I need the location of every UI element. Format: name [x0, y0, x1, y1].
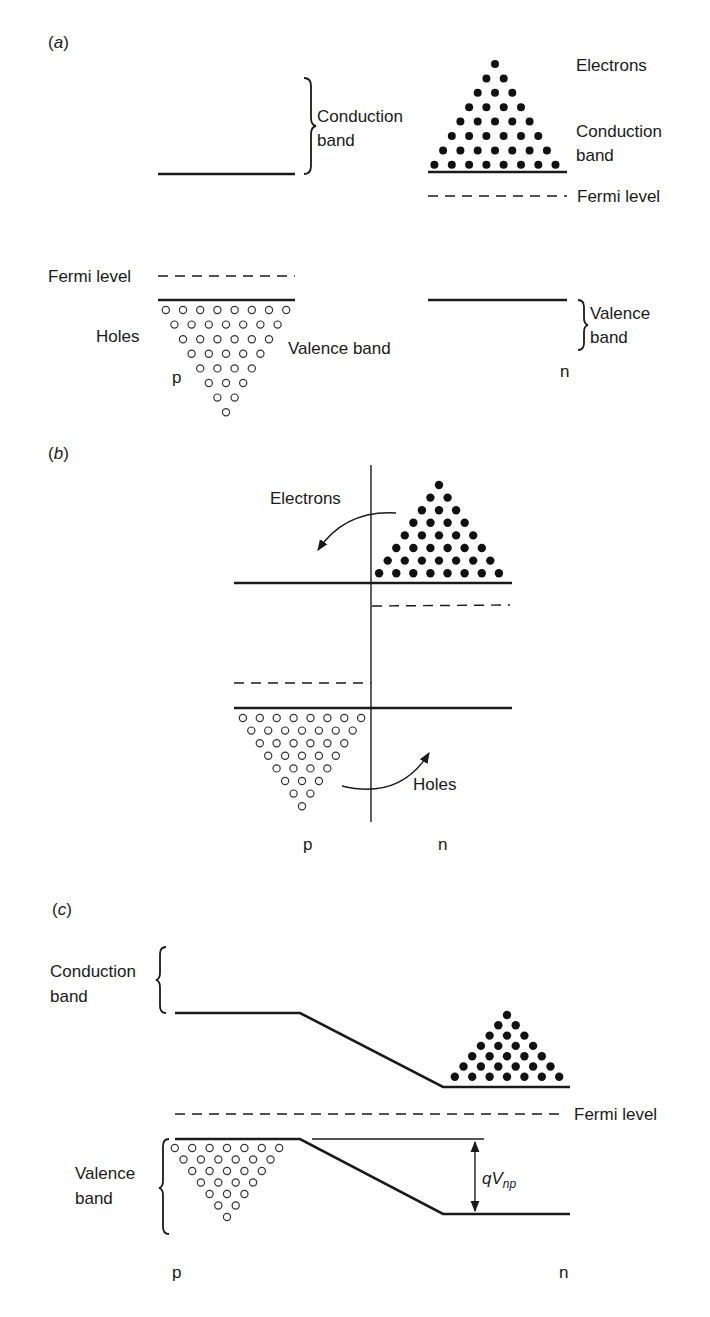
electron-dot	[465, 103, 473, 111]
electron-dot	[517, 132, 525, 140]
n-region-label-c: n	[559, 1263, 568, 1282]
electron-dot	[482, 161, 490, 169]
electron-dot	[409, 569, 417, 577]
electron-dot	[491, 89, 499, 97]
electron-dot	[430, 161, 438, 169]
hole-circle	[232, 1156, 239, 1163]
electron-dot	[459, 1062, 467, 1070]
hole-circle	[222, 409, 229, 416]
hole-circle	[265, 336, 272, 343]
electron-dot	[512, 1062, 520, 1070]
electrons-label: Electrons	[576, 56, 647, 75]
electron-dot	[485, 1031, 493, 1039]
hole-circle	[189, 1144, 196, 1151]
electron-dot	[426, 544, 434, 552]
fermi-level-label-c: Fermi level	[574, 1105, 657, 1124]
electron-dot	[477, 1042, 485, 1050]
pn-junction-band-diagram: (a) Conduction band Electrons Conduction…	[0, 0, 710, 1317]
hole-circle	[256, 714, 263, 721]
hole-circle	[231, 336, 238, 343]
valence-band-brace-c	[159, 1139, 169, 1234]
hole-circle	[240, 350, 247, 357]
hole-circle	[171, 321, 178, 328]
electron-dot	[435, 531, 443, 539]
electron-dot	[478, 544, 486, 552]
electron-dot	[468, 1052, 476, 1060]
electron-dot	[474, 118, 482, 126]
hole-circle	[290, 765, 297, 772]
hole-circle	[215, 1156, 222, 1163]
electron-dot	[494, 1021, 502, 1029]
hole-circle	[188, 350, 195, 357]
electron-dot	[474, 146, 482, 154]
electron-dot	[392, 544, 400, 552]
hole-circle	[197, 365, 204, 372]
electron-dot	[555, 1073, 563, 1081]
electron-dot	[482, 103, 490, 111]
electron-dot	[418, 556, 426, 564]
electron-dot	[384, 556, 392, 564]
hole-circle	[214, 394, 221, 401]
electron-dot	[435, 481, 443, 489]
electron-dot	[448, 161, 456, 169]
hole-circle	[214, 306, 221, 313]
electron-dot	[529, 1042, 537, 1050]
fermi-level-label-p: Fermi level	[48, 267, 131, 286]
hole-circle	[332, 752, 339, 759]
electron-dot	[534, 161, 542, 169]
hole-circle	[222, 350, 229, 357]
hole-circle	[215, 1202, 222, 1209]
hole-circle	[290, 790, 297, 797]
electron-dot	[426, 569, 434, 577]
electron-dot	[469, 556, 477, 564]
electron-dot	[538, 1052, 546, 1060]
hole-circle	[341, 740, 348, 747]
electron-dot	[508, 89, 516, 97]
electron-dot	[451, 1073, 459, 1081]
hole-circle	[273, 765, 280, 772]
electron-dot	[418, 506, 426, 514]
hole-circle	[205, 350, 212, 357]
hole-circle	[240, 379, 247, 386]
conduction-band-label-p-2: band	[317, 131, 355, 150]
electron-dot	[534, 132, 542, 140]
hole-circle	[315, 752, 322, 759]
electron-dot	[460, 569, 468, 577]
hole-circle	[265, 727, 272, 734]
hole-circle	[205, 379, 212, 386]
hole-circle	[197, 1179, 204, 1186]
electron-distribution-a	[430, 60, 559, 169]
electron-dot	[443, 493, 451, 501]
hole-circle	[197, 1156, 204, 1163]
conduction-band-brace-c	[156, 947, 166, 1013]
hole-circle	[265, 306, 272, 313]
hole-circle	[274, 321, 281, 328]
electrons-flow-label: Electrons	[270, 489, 341, 508]
electron-dot	[520, 1073, 528, 1081]
electron-dot	[495, 569, 503, 577]
hole-circle	[290, 740, 297, 747]
electron-dot	[409, 519, 417, 527]
electron-dot	[468, 1073, 476, 1081]
electron-dot	[418, 531, 426, 539]
hole-circle	[206, 1190, 213, 1197]
electron-dot	[456, 118, 464, 126]
hole-circle	[250, 1179, 257, 1186]
hole-circle	[307, 790, 314, 797]
electron-dot	[482, 132, 490, 140]
electron-dot	[517, 103, 525, 111]
electron-dot	[477, 1062, 485, 1070]
valence-band-label-p: Valence band	[288, 339, 391, 358]
electron-dot	[461, 519, 469, 527]
hole-circle	[324, 765, 331, 772]
hole-distribution-c	[171, 1144, 283, 1220]
n-region-label-b: n	[438, 835, 447, 854]
electron-dot	[503, 1052, 511, 1060]
electron-dot	[452, 556, 460, 564]
electron-dot	[500, 132, 508, 140]
hole-circle	[232, 1179, 239, 1186]
hole-circle	[258, 1167, 265, 1174]
hole-circle	[231, 394, 238, 401]
hole-circle	[341, 714, 348, 721]
valence-band-label-c: Valence	[75, 1164, 135, 1183]
